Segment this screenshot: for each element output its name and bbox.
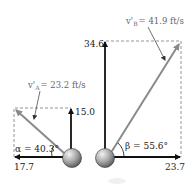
ball-b-label-leader: [148, 27, 165, 60]
ball-a-group: v'A= 23.2 ft/s 15.0 α = 40.3° 17.7: [14, 80, 95, 172]
ball-a-angle-label: α = 40.3°: [15, 144, 59, 154]
ball-a-vertical-component-label: 15.0: [75, 107, 95, 117]
ball-b-angle-label: β = 55.6°: [125, 141, 168, 151]
shadow-smudge: [108, 178, 126, 184]
ball-a: [63, 149, 82, 168]
ball-a-horizontal-component-label: 17.7: [14, 162, 34, 172]
ball-b-resultant-velocity-arrow: [112, 44, 179, 151]
ball-b-group: v'B= 41.9 ft/s 34.6 β = 55.6° 23.7: [84, 16, 185, 172]
ball-b-velocity-label: v'B= 41.9 ft/s: [125, 16, 184, 27]
ball-b-angle-arc: [118, 143, 124, 157]
ball-a-label-leader: [34, 91, 40, 119]
ball-a-velocity-label: v'A= 23.2 ft/s: [27, 80, 86, 91]
ball-b-horizontal-component-label: 23.7: [165, 162, 185, 172]
ball-b: [96, 149, 115, 168]
collision-velocity-diagram: v'A= 23.2 ft/s 15.0 α = 40.3° 17.7 v'B= …: [0, 0, 195, 188]
ball-b-vertical-component-label: 34.6: [84, 39, 104, 49]
